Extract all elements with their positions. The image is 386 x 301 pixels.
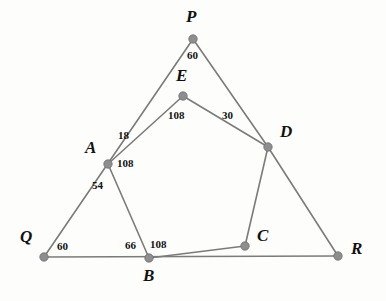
angle-at-A-right: 108 — [117, 158, 134, 169]
edge-E-D — [183, 96, 268, 147]
angle-at-B-left: 66 — [125, 240, 136, 251]
angle-at-P: 60 — [187, 50, 198, 61]
vertex-label-c: C — [257, 227, 268, 244]
vertex-dot-r — [334, 252, 342, 260]
angle-at-A-lower: 54 — [92, 180, 103, 191]
angle-at-Q: 60 — [57, 241, 68, 252]
diagram-canvas — [0, 0, 386, 301]
geometry-diagram: PEADQBCR 601083018108546066108 — [0, 0, 386, 301]
vertex-dot-e — [179, 92, 187, 100]
edge-P-D — [193, 39, 268, 147]
edge-Q-P — [44, 39, 193, 257]
edge-D-R — [268, 147, 338, 256]
angle-at-E-left: 108 — [168, 110, 185, 121]
vertex-label-a: A — [85, 139, 96, 156]
vertex-label-r: R — [351, 240, 362, 257]
vertex-label-p: P — [186, 8, 196, 25]
vertex-dot-b — [145, 254, 153, 262]
vertex-label-d: D — [280, 123, 292, 140]
vertex-dot-a — [104, 160, 112, 168]
vertex-dot-p — [189, 35, 197, 43]
angle-at-A-upper: 18 — [118, 130, 129, 141]
vertex-label-b: B — [143, 267, 154, 284]
vertex-label-e: E — [176, 67, 187, 84]
vertex-dot-c — [241, 242, 249, 250]
vertex-dot-q — [40, 253, 48, 261]
vertex-label-q: Q — [20, 228, 32, 245]
edge-Q-R — [44, 256, 338, 257]
angle-at-B-right: 108 — [150, 239, 167, 250]
vertex-dot-d — [264, 143, 272, 151]
angle-at-E-right: 30 — [222, 110, 233, 121]
